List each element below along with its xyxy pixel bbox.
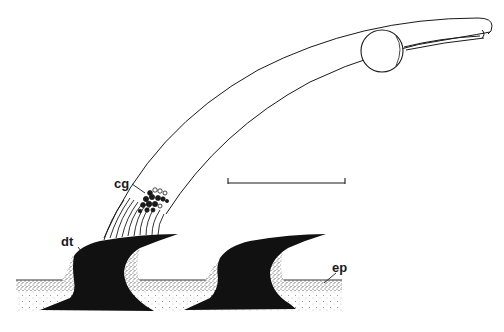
label-dt: dt: [61, 235, 73, 248]
scale-bar: [228, 178, 345, 184]
diagram-figure: [0, 0, 504, 332]
sensory-process: [104, 18, 492, 238]
epidermis-layer: [16, 248, 342, 291]
terminal-bulb: [361, 30, 403, 72]
label-cg: cg: [114, 177, 129, 190]
label-ep: ep: [332, 261, 347, 274]
